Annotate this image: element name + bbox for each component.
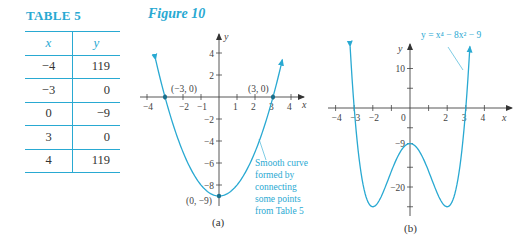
annotation-leader-a	[259, 139, 266, 160]
x-tick-label: 1	[233, 102, 238, 112]
x-tick-label: 4	[287, 102, 292, 112]
annotation-line-5: from Table 5	[255, 206, 304, 216]
x-tick-label: −4	[332, 113, 342, 123]
x-tick-label: 4	[480, 113, 485, 123]
annotation-line-2: formed by	[255, 170, 295, 180]
equation-label: y = x⁴ − 8x² − 9	[421, 30, 481, 40]
annotation-line-1: Smooth curve	[255, 158, 308, 168]
graphs: −4−2−1123442−2−4−6−8 x y (−3, 0) (3, 0) …	[0, 0, 532, 241]
x-tick-label: −1	[197, 102, 207, 112]
x-tick-label: −2	[179, 102, 189, 112]
origin-label-b: 0	[401, 113, 406, 123]
x-tick-label: −4	[143, 102, 153, 112]
graph-b: −4−3−223410−9−20 x y 0 y = x⁴ − 8x² − 9 …	[328, 30, 512, 235]
x-tick-label: −2	[369, 113, 379, 123]
y-tick-label: −2	[204, 115, 214, 125]
y-tick-label: −4	[204, 137, 214, 147]
y-tick-label: 4	[209, 49, 214, 59]
x-axis-label-b: x	[501, 112, 507, 123]
point-label-3-0: (3, 0)	[248, 84, 269, 95]
point-3-0	[271, 95, 275, 99]
y-tick-label: −20	[390, 183, 405, 193]
y-axis-label-b: y	[397, 43, 403, 54]
annotation-line-4: some points	[255, 194, 301, 204]
x-tick-label: 2	[251, 102, 256, 112]
point-label-0-neg9: (0, −9)	[186, 196, 212, 207]
x-axis-label-a: x	[301, 99, 307, 110]
y-tick-label: 2	[209, 71, 214, 81]
y-tick-label: 10	[396, 64, 406, 74]
ticks-b: −4−3−223410−9−20	[332, 64, 486, 207]
point-neg3-0	[163, 95, 167, 99]
subtitle-b: (b)	[404, 222, 417, 235]
subtitle-a: (a)	[212, 216, 225, 229]
point-0-neg9	[217, 194, 221, 198]
y-axis-label-a: y	[223, 31, 229, 42]
annotation-line-3: connecting	[255, 182, 297, 192]
x-tick-label: 2	[443, 113, 448, 123]
graph-a: −4−2−1123442−2−4−6−8 x y (−3, 0) (3, 0) …	[140, 31, 308, 229]
y-tick-label: −6	[204, 159, 214, 169]
equation-leader-b	[448, 47, 463, 70]
point-label-neg3-0: (−3, 0)	[171, 84, 197, 95]
